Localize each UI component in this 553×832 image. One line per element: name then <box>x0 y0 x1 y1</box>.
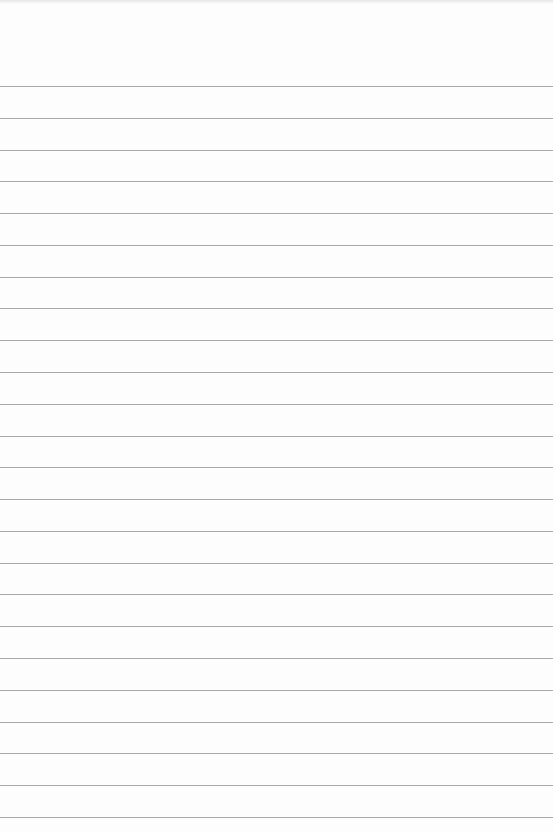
page-top-edge <box>0 0 553 4</box>
ruled-line <box>0 467 553 468</box>
ruled-line <box>0 118 553 119</box>
ruled-line <box>0 594 553 595</box>
ruled-line <box>0 753 553 754</box>
ruled-line <box>0 817 553 818</box>
ruled-line <box>0 499 553 500</box>
ruled-line <box>0 404 553 405</box>
ruled-line <box>0 308 553 309</box>
ruled-line <box>0 626 553 627</box>
ruled-line <box>0 690 553 691</box>
ruled-line <box>0 213 553 214</box>
ruled-line <box>0 86 553 87</box>
ruled-line <box>0 658 553 659</box>
ruled-line <box>0 181 553 182</box>
ruled-paper-page <box>0 0 553 832</box>
ruled-line <box>0 531 553 532</box>
ruled-line <box>0 785 553 786</box>
ruled-line <box>0 340 553 341</box>
ruled-line <box>0 150 553 151</box>
ruled-line <box>0 372 553 373</box>
ruled-line <box>0 563 553 564</box>
ruled-line <box>0 245 553 246</box>
ruled-line <box>0 722 553 723</box>
ruled-line <box>0 277 553 278</box>
ruled-line <box>0 436 553 437</box>
